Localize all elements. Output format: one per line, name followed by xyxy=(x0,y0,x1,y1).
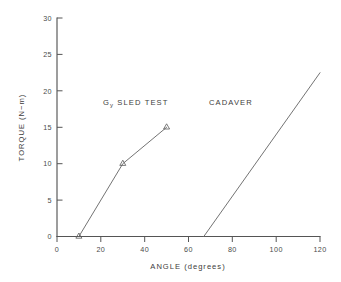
x-tick-label-40: 40 xyxy=(140,245,149,254)
x-tick-label-0: 0 xyxy=(55,245,59,254)
sled-test-marker-point-2 xyxy=(120,160,126,165)
y-axis-title: TORQUE (N−m) xyxy=(17,94,26,162)
x-axis-tick-labels: 0 20 40 60 80 100 120 xyxy=(55,245,327,254)
chart-annotations: Gy SLED TEST CADAVER xyxy=(103,98,253,108)
sled-test-marker-point-3 xyxy=(164,124,170,129)
y-axis-tick-labels: 0 5 10 15 20 25 30 xyxy=(43,14,52,242)
x-axis-ticks xyxy=(57,237,320,243)
y-tick-label-0: 0 xyxy=(48,232,52,241)
torque-angle-chart: 0 5 10 15 20 25 30 TORQUE (N−m) xyxy=(0,0,341,282)
sled-test-line xyxy=(79,127,167,236)
x-tick-label-80: 80 xyxy=(228,245,237,254)
x-tick-label-100: 100 xyxy=(270,245,283,254)
chart-figure: 0 5 10 15 20 25 30 TORQUE (N−m) xyxy=(0,0,341,282)
x-axis: 0 20 40 60 80 100 120 ANGLE (degrees) xyxy=(55,237,327,272)
y-tick-label-10: 10 xyxy=(43,159,52,168)
x-tick-label-60: 60 xyxy=(184,245,193,254)
y-tick-label-20: 20 xyxy=(43,87,52,96)
sled-label-suffix: SLED TEST xyxy=(114,98,168,107)
x-tick-label-20: 20 xyxy=(96,245,105,254)
y-tick-label-25: 25 xyxy=(43,50,52,59)
sled-label-prefix: G xyxy=(103,98,110,107)
y-tick-label-15: 15 xyxy=(43,123,52,132)
x-axis-title: ANGLE (degrees) xyxy=(150,262,225,271)
annotation-cadaver: CADAVER xyxy=(209,98,253,107)
x-tick-label-120: 120 xyxy=(313,245,326,254)
y-tick-label-30: 30 xyxy=(43,14,52,23)
y-tick-label-5: 5 xyxy=(48,196,52,205)
y-axis-ticks xyxy=(57,18,63,237)
series-gy-sled-test xyxy=(76,124,170,238)
annotation-gy-sled-test: Gy SLED TEST xyxy=(103,98,168,108)
y-axis: 0 5 10 15 20 25 30 TORQUE (N−m) xyxy=(17,14,63,242)
